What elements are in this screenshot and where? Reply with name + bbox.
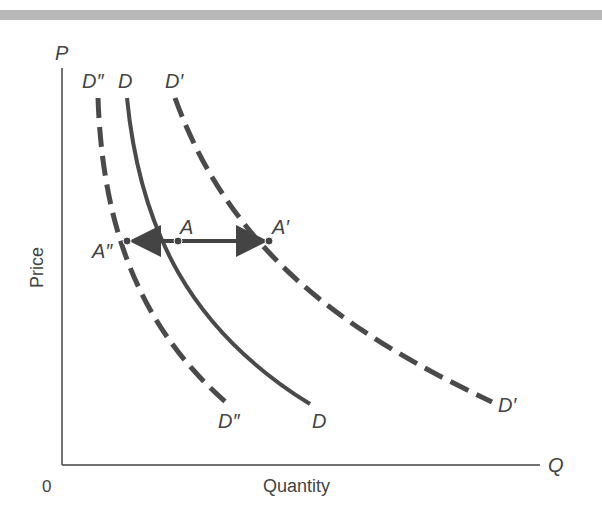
point-a bbox=[174, 237, 182, 245]
curve-d-double-prime bbox=[98, 98, 228, 404]
curve-label-d-prime-top: D′ bbox=[165, 70, 184, 92]
curve-label-d-bottom: D bbox=[312, 410, 326, 432]
point-label-a: A bbox=[179, 216, 193, 238]
x-axis-label: Quantity bbox=[263, 476, 330, 496]
origin-label: 0 bbox=[42, 477, 51, 496]
curve-label-d-prime-bottom: D′ bbox=[498, 394, 517, 416]
curve-label-d-top: D bbox=[118, 70, 132, 92]
point-label-a-prime: A′ bbox=[271, 216, 290, 238]
curve-label-d-double-prime-bottom: D″ bbox=[218, 410, 240, 432]
y-axis-label: Price bbox=[27, 247, 47, 288]
point-a-double-prime bbox=[123, 237, 131, 245]
curve-label-d-double-prime-top: D″ bbox=[82, 70, 104, 92]
demand-shift-chart: P Q 0 Quantity Price D″ D D′ D″ D D′ A A… bbox=[0, 0, 602, 510]
x-axis-letter: Q bbox=[548, 454, 564, 476]
y-axis-letter: P bbox=[55, 42, 69, 64]
point-label-a-double-prime: A″ bbox=[91, 240, 113, 262]
point-a-prime bbox=[265, 237, 273, 245]
curve-d bbox=[127, 98, 310, 404]
curve-d-prime bbox=[175, 98, 492, 402]
